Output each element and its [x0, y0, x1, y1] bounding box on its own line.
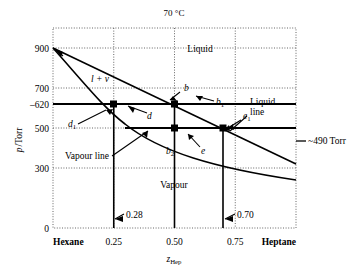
arrowhead-d	[128, 106, 135, 113]
point-marker-b2	[171, 125, 178, 132]
y-tick-0: 0	[44, 224, 49, 234]
point-label-b2: b2	[166, 146, 175, 157]
x-tick-0.75: 0.75	[227, 237, 244, 247]
label-vapour-line: Vapour line	[65, 151, 109, 161]
leader-vapour-line	[112, 131, 148, 156]
x-axis-title-sub: Hep	[170, 258, 182, 265]
x-tick-0.25: 0.25	[105, 237, 122, 247]
y-tick-620: –620	[29, 100, 49, 110]
y-axis-ticks: 900 700 –620 500 300 0	[29, 44, 49, 234]
y-tick-300: 300	[35, 164, 50, 174]
point-label-b1: b1	[216, 97, 224, 108]
y-axis-title-unit: /Torr	[14, 127, 24, 147]
phase-diagram-figure: 70 °C 900 700 –620 500 300 0 p/Torr Hexa…	[0, 0, 360, 270]
x-axis-title: zHep	[165, 254, 182, 265]
point-label-d: d	[147, 111, 152, 121]
svg-text:p/Torr: p/Torr	[14, 127, 24, 153]
x-label-heptane: Heptane	[262, 237, 296, 247]
annotation-490-torr: ~490 Torr	[308, 136, 347, 146]
point-label-b: b	[184, 83, 189, 93]
arrow-heads	[55, 49, 234, 222]
point-marker-b1	[171, 101, 178, 108]
region-label-liquid: Liquid	[187, 44, 213, 54]
point-label-d1: d1	[68, 119, 76, 130]
point-marker-d1	[110, 101, 117, 108]
leader-d1	[78, 110, 106, 124]
y-axis-title: p/Torr	[14, 127, 24, 153]
region-label-two-phase: l + v	[91, 74, 110, 84]
figure-title: 70 °C	[164, 8, 185, 18]
point-marker-e1	[220, 125, 227, 132]
leader-arrows	[55, 49, 247, 219]
x-label-hexane: Hexane	[53, 237, 84, 247]
arrowhead-b1	[196, 96, 203, 101]
callout-composition-0.70: 0.70	[237, 210, 254, 220]
y-tick-700: 700	[35, 84, 50, 94]
point-label-e: e	[201, 146, 205, 156]
region-label-vapour: Vapour	[160, 180, 188, 190]
y-tick-900: 900	[35, 44, 50, 54]
tie-lines	[53, 104, 306, 141]
x-axis-ticks: Hexane 0.25 0.50 0.75 Heptane	[53, 237, 296, 247]
y-tick-500: 500	[35, 124, 50, 134]
y-axis-title-p: p	[14, 147, 24, 153]
x-tick-0.50: 0.50	[166, 237, 183, 247]
label-liquid-line-word1: Liquid	[250, 97, 276, 107]
callout-composition-0.28: 0.28	[126, 210, 143, 220]
label-liquid-line-word2: line	[250, 107, 264, 117]
